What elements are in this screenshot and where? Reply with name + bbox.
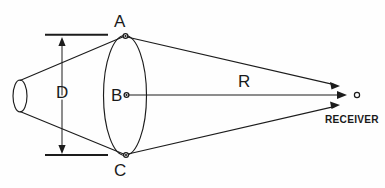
vertex-c-center-dot: [125, 154, 127, 156]
vertex-a-center-dot: [124, 35, 126, 37]
ray-c-to-receiver-line: [128, 107, 334, 154]
label-point-c: C: [114, 162, 126, 179]
ray-c-arrowhead-icon: [330, 102, 340, 110]
horn-apex-ellipse: [13, 80, 27, 112]
ray-a-arrowhead-icon: [330, 82, 340, 90]
cone-upper-edge-line: [20, 36, 125, 81]
dimension-arrow-up-head-icon: [58, 37, 65, 46]
ray-b-arrowhead-icon: [337, 91, 347, 99]
label-diameter-d: D: [56, 84, 68, 101]
diagram-canvas: A B C D R RECEIVER: [0, 0, 385, 188]
label-point-b: B: [111, 87, 122, 104]
cone-lower-edge-line: [20, 112, 126, 156]
label-point-a: A: [114, 13, 125, 30]
label-receiver: RECEIVER: [325, 114, 379, 125]
label-range-r: R: [238, 73, 250, 90]
dimension-arrow-down-head-icon: [58, 145, 65, 154]
receiver-point-marker: [354, 92, 359, 97]
vertex-b-center-dot: [125, 94, 127, 96]
ray-a-to-receiver-line: [127, 37, 334, 85]
